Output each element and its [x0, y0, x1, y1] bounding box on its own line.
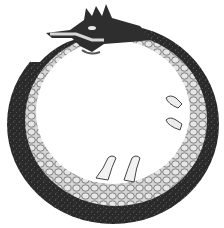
ouroboros-illustration: [0, 0, 224, 228]
serpent-body: [7, 24, 219, 224]
